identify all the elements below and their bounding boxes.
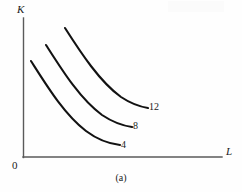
y-axis-label: K: [17, 4, 24, 15]
curve-label-4: 4: [121, 140, 126, 150]
isoquant-curve-8: [46, 45, 132, 127]
curve-label-8: 8: [133, 121, 138, 131]
origin-label: 0: [12, 160, 18, 171]
figure-caption: (a): [0, 172, 242, 183]
isoquant-curve-12: [65, 28, 148, 108]
isoquant-figure: K L 0 4 8 12 (a): [0, 0, 242, 192]
isoquant-curve-4: [31, 61, 120, 145]
plot-canvas: [0, 0, 242, 192]
curve-label-12: 12: [149, 102, 159, 112]
x-axis-label: L: [226, 146, 232, 157]
